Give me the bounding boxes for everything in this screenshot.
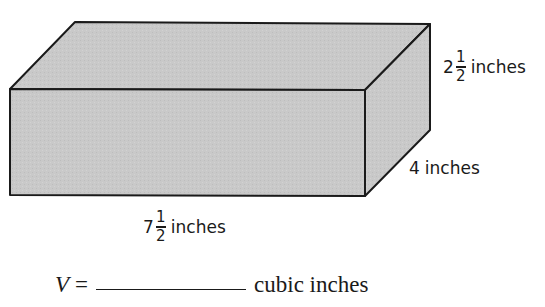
volume-variable: V: [55, 272, 69, 298]
length-denominator: 2: [156, 228, 166, 244]
front-face: [10, 89, 365, 196]
length-unit: inches: [171, 217, 226, 237]
height-numerator: 1: [456, 50, 466, 66]
prism-svg: [0, 0, 545, 307]
width-label: 4 inches: [409, 158, 480, 178]
height-whole: 2: [443, 57, 454, 77]
width-value: 4: [409, 158, 420, 178]
length-numerator: 1: [156, 210, 166, 226]
answer-blank[interactable]: [96, 288, 246, 290]
height-denominator: 2: [456, 68, 466, 84]
volume-unit: cubic inches: [254, 272, 368, 298]
height-fraction: 1 2: [456, 50, 466, 84]
top-face: [10, 22, 430, 90]
length-label: 7 1 2 inches: [143, 210, 226, 244]
width-unit: inches: [425, 158, 480, 178]
height-label: 2 1 2 inches: [443, 50, 526, 84]
height-unit: inches: [471, 57, 526, 77]
length-fraction: 1 2: [156, 210, 166, 244]
length-whole: 7: [143, 217, 154, 237]
volume-equation: V = cubic inches: [55, 272, 368, 298]
equals-sign: =: [75, 272, 88, 298]
prism-diagram: [0, 0, 545, 307]
